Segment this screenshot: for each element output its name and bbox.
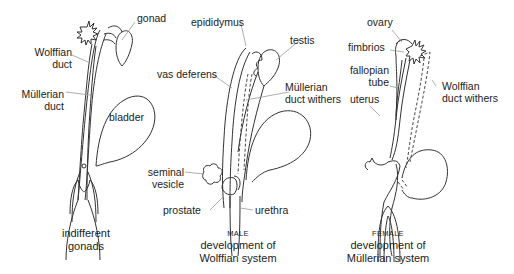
indifferent-figure xyxy=(66,21,155,260)
label-wolffian-duct-line1: Wolffian xyxy=(28,46,72,58)
label-uterus: uterus xyxy=(350,93,379,105)
label-urethra: urethra xyxy=(255,204,288,216)
caption-male-sub: MALE xyxy=(190,229,286,239)
caption-female-sub: FEMALE xyxy=(340,229,436,239)
label-bladder: bladder xyxy=(109,111,144,123)
uterus-shape xyxy=(365,158,388,170)
label-fallopian-tube: fallopian tube xyxy=(346,64,389,88)
caption-indifferent-line1: indifferent xyxy=(54,227,118,240)
caption-indifferent-line2: gonads xyxy=(54,240,118,253)
label-mullerian-duct: Müllerian duct xyxy=(18,88,64,112)
label-fallopian-tube-line1: fallopian xyxy=(346,64,389,76)
label-gonad: gonad xyxy=(137,12,166,24)
label-seminal-vesicle: seminal vesicle xyxy=(140,166,184,190)
label-testis: testis xyxy=(290,34,315,46)
caption-male: MALE development of Wolffian system xyxy=(190,229,286,265)
female-bladder xyxy=(402,150,447,199)
caption-female-line1: development of xyxy=(340,239,436,252)
male-bladder xyxy=(246,111,311,182)
fimbria-star xyxy=(77,21,98,45)
prostate-shape xyxy=(222,177,237,194)
label-mullerian-duct-line2: duct xyxy=(18,100,64,112)
testis-shape xyxy=(258,50,280,86)
wolffian-duct-withers-dashed xyxy=(410,52,430,162)
label-seminal-vesicle-line1: seminal xyxy=(140,166,184,178)
label-wolffian-withers-line1: Wolffian xyxy=(442,80,498,92)
label-prostate: prostate xyxy=(163,204,201,216)
label-wolffian-withers: Wolffian duct withers xyxy=(442,80,498,104)
gonad-shape xyxy=(116,31,132,66)
label-wolffian-duct: Wolffian duct xyxy=(28,46,72,70)
label-seminal-vesicle-line2: vesicle xyxy=(140,178,184,190)
bladder-shape xyxy=(96,96,155,166)
label-vas-deferens: vas deferens xyxy=(157,68,217,80)
label-wolffian-withers-line2: duct withers xyxy=(442,92,498,104)
fimbrios-star xyxy=(406,40,426,64)
label-wolffian-duct-line2: duct xyxy=(28,58,72,70)
seminal-vesicle-shape xyxy=(203,164,222,184)
caption-male-line2: Wolffian system xyxy=(190,252,286,265)
epididymus-outer xyxy=(223,48,247,208)
label-fimbrios: fimbrios xyxy=(348,41,385,53)
label-mullerian-withers-line1: Müllerian xyxy=(285,81,341,93)
label-mullerian-duct-line1: Müllerian xyxy=(18,88,64,100)
label-mullerian-withers: Müllerian duct withers xyxy=(285,81,341,105)
label-fallopian-tube-line2: tube xyxy=(346,76,389,88)
label-mullerian-withers-line2: duct withers xyxy=(285,93,341,105)
caption-indifferent: indifferent gonads xyxy=(54,227,118,253)
caption-male-line1: development of xyxy=(190,239,286,252)
label-ovary: ovary xyxy=(367,16,393,28)
label-epididymus: epididymus xyxy=(191,16,244,28)
caption-female-line2: Müllerian system xyxy=(340,252,436,265)
caption-female: FEMALE development of Müllerian system xyxy=(340,229,436,265)
